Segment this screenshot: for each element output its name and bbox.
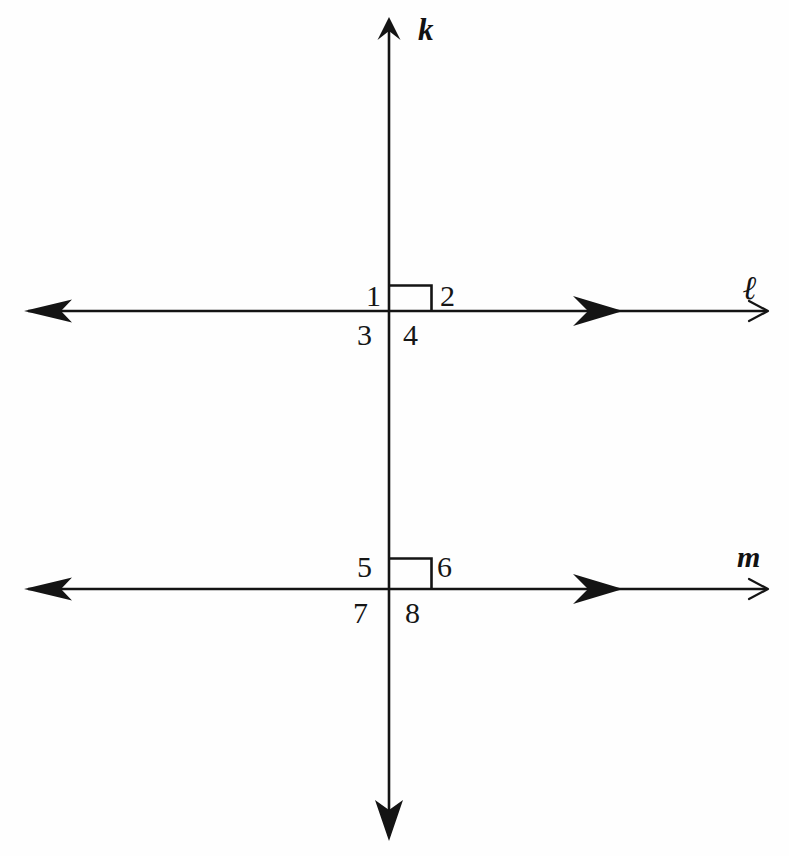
angle-label-4: 4 <box>403 320 418 350</box>
right-angle-marker-upper <box>390 286 432 312</box>
angle-label-6: 6 <box>437 552 452 582</box>
line-m <box>24 574 768 604</box>
line-l <box>24 296 768 326</box>
angle-label-1: 1 <box>366 281 381 311</box>
angle-label-8: 8 <box>405 598 420 628</box>
diagram-canvas <box>0 0 789 856</box>
angle-label-5: 5 <box>357 552 372 582</box>
line-k <box>375 17 403 841</box>
angle-label-2: 2 <box>440 281 455 311</box>
angle-label-3: 3 <box>357 320 372 350</box>
line-label-m: m <box>737 542 760 572</box>
angle-label-7: 7 <box>353 598 368 628</box>
line-label-l: ℓ <box>743 272 757 305</box>
geometry-figure: k ℓ m 1 2 3 4 5 6 7 8 <box>0 0 789 856</box>
right-angle-marker-lower <box>390 559 432 590</box>
line-label-k: k <box>418 14 433 45</box>
